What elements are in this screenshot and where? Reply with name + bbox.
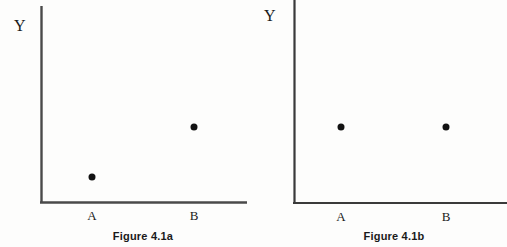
data-point-a <box>338 124 345 131</box>
x-tick-label-a: A <box>336 210 345 223</box>
x-tick-label-a: A <box>87 209 96 222</box>
x-tick-label-b: B <box>442 210 451 223</box>
y-axis-label-a: Y <box>14 18 26 34</box>
plot-area-b: Y A B Figure 4.1b <box>253 0 507 247</box>
x-tick-label-b: B <box>190 209 199 222</box>
axes-b <box>253 0 507 247</box>
data-point-a <box>89 174 96 181</box>
y-axis-label-b: Y <box>264 8 276 24</box>
axes-a <box>0 0 254 247</box>
figure-caption-a: Figure 4.1a <box>113 231 173 242</box>
chart-panel-figure-4-1b: Y A B Figure 4.1b <box>253 0 507 247</box>
figure-page: Y A B Figure 4.1a Y A B Figure 4.1b <box>0 0 507 247</box>
data-point-b <box>443 124 450 131</box>
data-point-b <box>191 124 198 131</box>
chart-panel-figure-4-1a: Y A B Figure 4.1a <box>0 0 254 247</box>
figure-caption-b: Figure 4.1b <box>364 231 425 242</box>
plot-area-a: Y A B Figure 4.1a <box>0 0 254 247</box>
